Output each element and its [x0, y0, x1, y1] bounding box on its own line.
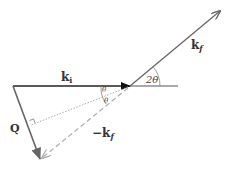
theta-label-top: θ	[102, 86, 107, 94]
ki-label: ki	[61, 70, 72, 85]
bisector-line	[31, 87, 128, 125]
scattering-diagram: ki kf −kf Q θ θ 2θ	[0, 0, 230, 174]
neg-kf-label: −kf	[92, 126, 115, 141]
neg-kf-vector	[42, 88, 128, 158]
two-theta-label: 2θ	[145, 74, 158, 85]
right-angle-marker	[30, 119, 36, 123]
kf-vector	[130, 11, 220, 86]
q-label: Q	[10, 122, 20, 135]
kf-label: kf	[191, 38, 204, 53]
